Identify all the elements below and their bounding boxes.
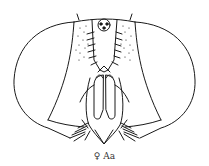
frontal-bristles-left (87, 32, 97, 65)
antenna-right (106, 75, 115, 119)
vibrissae-right (119, 120, 139, 141)
right-eye-lower (125, 120, 161, 127)
fly-head-illustration (0, 0, 209, 166)
head-outline (14, 22, 195, 138)
vibrissae-left (70, 120, 90, 141)
left-eye-border (48, 22, 74, 120)
right-eye-border (135, 22, 161, 120)
face-outline (86, 78, 123, 144)
antenna-left (94, 75, 103, 119)
figure-caption: ♀ Aa (0, 150, 209, 162)
left-eye-lower (48, 120, 84, 127)
